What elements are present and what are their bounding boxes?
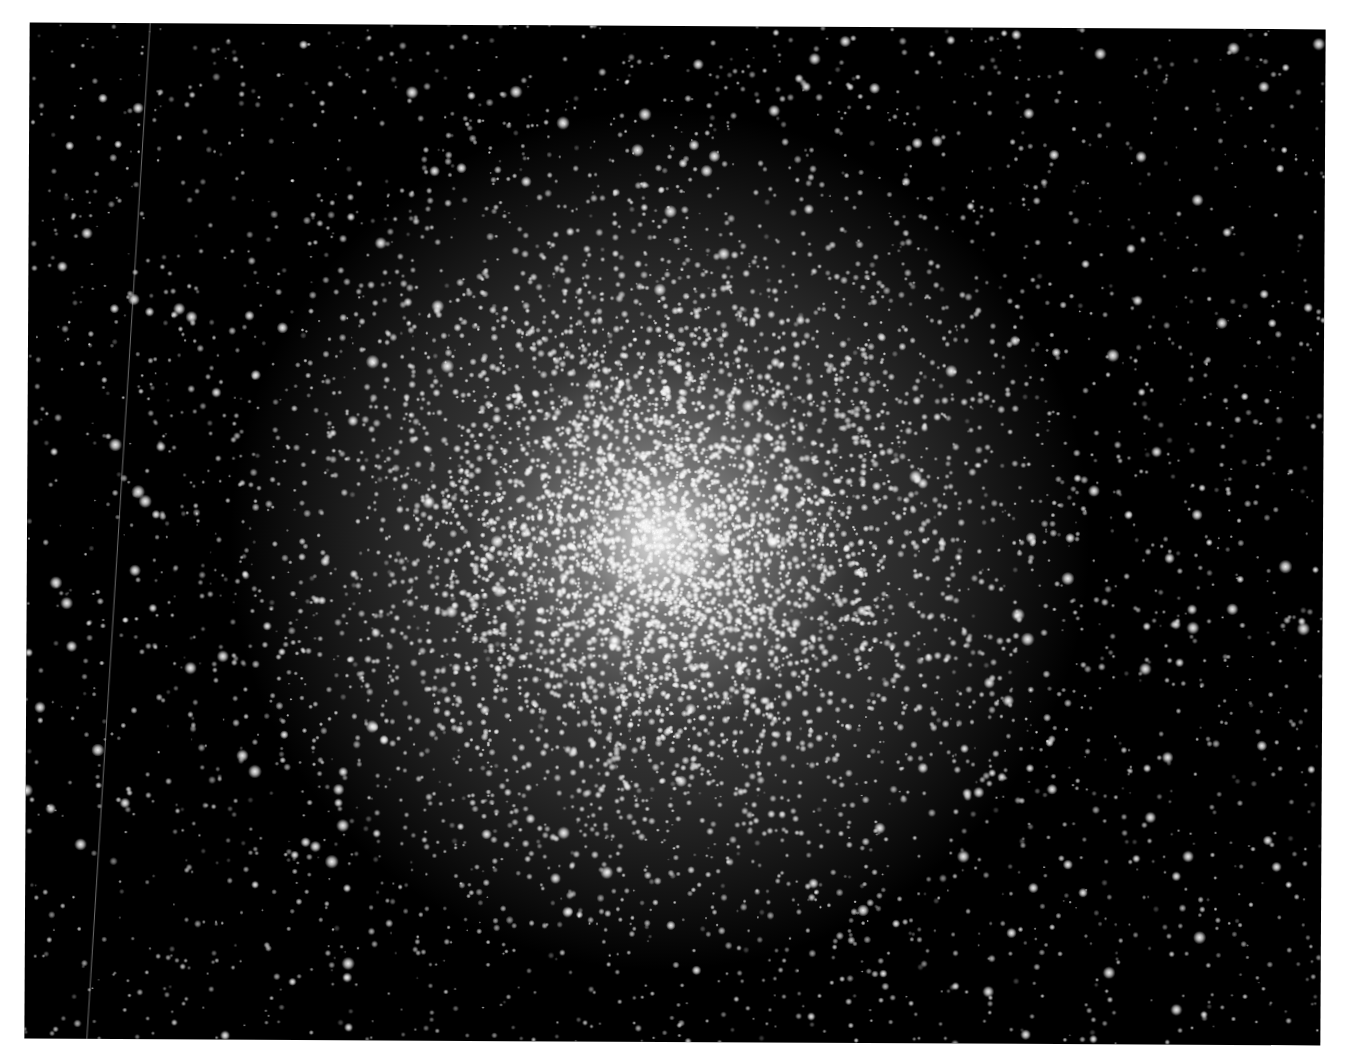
starfield bbox=[24, 23, 1325, 1046]
astronomical-photo bbox=[24, 23, 1325, 1046]
